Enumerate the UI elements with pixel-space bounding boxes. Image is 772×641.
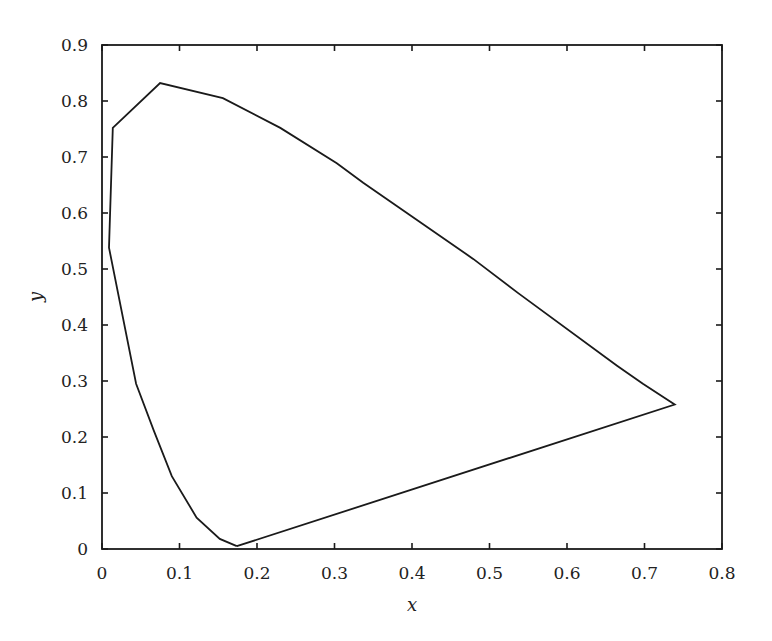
x-tick-label: 0.1 <box>166 563 193 583</box>
y-tick-labels: 00.10.20.30.40.50.60.70.80.9 <box>61 35 88 559</box>
y-tick-label: 0.6 <box>61 203 88 223</box>
y-axis-label: y <box>25 291 46 303</box>
x-tick-label: 0.7 <box>631 563 658 583</box>
y-tick-label: 0.2 <box>61 427 88 447</box>
chromaticity-curve <box>109 83 675 546</box>
x-tick-label: 0.4 <box>398 563 425 583</box>
chart: 00.10.20.30.40.50.60.70.8 00.10.20.30.40… <box>0 0 772 641</box>
x-tick-labels: 00.10.20.30.40.50.60.70.8 <box>97 563 736 583</box>
axis-ticks <box>102 45 722 549</box>
x-axis-label: x <box>407 594 417 615</box>
y-tick-label: 0 <box>77 539 88 559</box>
y-tick-label: 0.8 <box>61 91 88 111</box>
y-tick-label: 0.5 <box>61 259 88 279</box>
y-tick-label: 0.1 <box>61 483 88 503</box>
x-tick-label: 0.8 <box>708 563 735 583</box>
plot-frame <box>102 45 722 549</box>
x-tick-label: 0.3 <box>321 563 348 583</box>
y-tick-label: 0.3 <box>61 371 88 391</box>
y-tick-label: 0.4 <box>61 315 88 335</box>
y-tick-label: 0.7 <box>61 147 88 167</box>
x-tick-label: 0 <box>97 563 108 583</box>
y-tick-label: 0.9 <box>61 35 88 55</box>
x-tick-label: 0.5 <box>476 563 503 583</box>
x-tick-label: 0.6 <box>553 563 580 583</box>
x-tick-label: 0.2 <box>243 563 270 583</box>
